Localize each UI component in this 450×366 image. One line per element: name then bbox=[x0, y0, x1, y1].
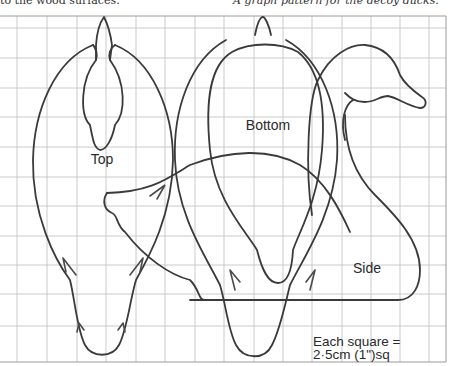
scale-note-line2: 2·5cm (1")sq bbox=[313, 347, 390, 362]
grid-lines bbox=[0, 16, 446, 362]
top-view-label: Top bbox=[91, 151, 114, 167]
decoy-graph-pattern: Top Bottom Side Each square = 2·5cm (1")… bbox=[0, 0, 450, 366]
bottom-view-outline bbox=[175, 17, 337, 356]
side-view-label: Side bbox=[353, 260, 381, 276]
bottom-view-label: Bottom bbox=[246, 117, 290, 133]
grid-border bbox=[0, 16, 446, 362]
